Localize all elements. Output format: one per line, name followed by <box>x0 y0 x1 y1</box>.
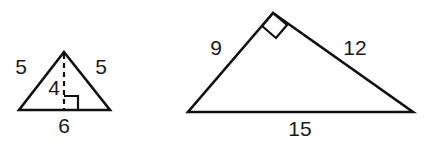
right-triangle-group: 9 12 15 <box>188 13 413 140</box>
label-right-triangle-left-side: 9 <box>210 36 222 59</box>
label-right-triangle-right-side: 12 <box>343 36 366 59</box>
label-isosceles-altitude: 4 <box>48 76 60 99</box>
right-angle-marker-icon-isosceles <box>64 96 78 110</box>
label-right-triangle-base: 15 <box>288 117 311 140</box>
isosceles-triangle-group: 5 5 4 6 <box>15 52 110 137</box>
geometry-figure: 5 5 4 6 9 12 15 <box>0 0 424 146</box>
label-isosceles-left-side: 5 <box>15 55 27 78</box>
diagram-canvas: 5 5 4 6 9 12 15 <box>0 0 424 146</box>
label-isosceles-base: 6 <box>58 114 70 137</box>
label-isosceles-right-side: 5 <box>95 55 107 78</box>
right-angle-marker-icon-right-triangle <box>262 13 287 38</box>
right-triangle-outline <box>188 13 413 112</box>
